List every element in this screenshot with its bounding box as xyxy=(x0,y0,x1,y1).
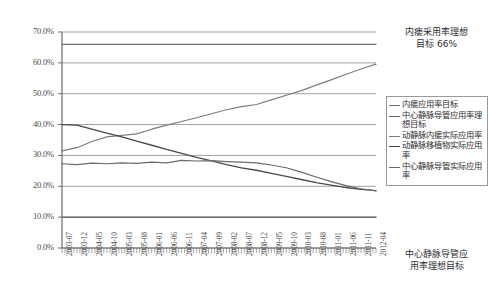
chart-legend: 内瘘应用率目标中心静脉导管应用率理想目标动静脉内瘘实际应用率动静脉移植物实际应用… xyxy=(386,96,488,186)
x-axis-label: 2003-07 xyxy=(65,232,74,256)
x-axis-label: 2009-05 xyxy=(275,232,284,256)
y-axis-label: 30.0% xyxy=(8,149,54,159)
x-axis-label: 2006-11 xyxy=(185,232,194,256)
plot-area: 70.0%60.0%50.0%40.0%30.0%20.0%10.0%0.0% … xyxy=(0,0,380,304)
legend-line-swatch-icon xyxy=(389,162,400,171)
target-note-top-line1: 内瘘采用率理想 xyxy=(385,26,488,38)
y-axis-label: 10.0% xyxy=(8,211,54,221)
x-axis-label: 2006-01 xyxy=(155,232,164,256)
x-axis-label: 2011-11 xyxy=(364,233,373,256)
x-axis-label: 2010-03 xyxy=(304,232,313,256)
target-note-bottom-line1: 中心静脉导管应 xyxy=(385,248,488,260)
legend-item-label: 中心静脉导管实际应用率 xyxy=(402,162,485,181)
x-axis-label: 2008-02 xyxy=(230,232,239,256)
legend-item[interactable]: 动静脉移植物实际应用率 xyxy=(389,141,485,160)
y-axis-label: 20.0% xyxy=(8,180,54,190)
legend-line-swatch-icon xyxy=(389,131,400,140)
x-axis-label: 2011-06 xyxy=(349,232,358,256)
y-axis-label: 50.0% xyxy=(8,88,54,98)
x-axis-label: 2009-10 xyxy=(290,232,299,256)
x-axis-label: 2008-12 xyxy=(260,232,269,256)
x-axis-label: 2005-03 xyxy=(125,232,134,256)
x-axis-label: 2008-07 xyxy=(245,232,254,256)
target-note-top: 内瘘采用率理想 目标 66% xyxy=(385,26,488,50)
x-axis-label: 2006-06 xyxy=(170,232,179,256)
legend-item[interactable]: 中心静脉导管实际应用率 xyxy=(389,162,485,181)
legend-line-swatch-icon xyxy=(389,141,400,150)
y-axis-label: 0.0% xyxy=(8,242,54,252)
legend-item[interactable]: 中心静脉导管应用率理想目标 xyxy=(389,111,485,130)
legend-item-label: 动静脉内瘘实际应用率 xyxy=(402,131,485,141)
x-axis-label: 2011-01 xyxy=(334,232,343,256)
target-note-bottom-line2: 用率理想目标 xyxy=(385,260,488,272)
legend-item-label: 内瘘应用率目标 xyxy=(402,100,485,110)
legend-line-swatch-icon xyxy=(389,111,400,120)
x-axis-label: 2003-12 xyxy=(80,232,89,256)
legend-item[interactable]: 内瘘应用率目标 xyxy=(389,100,485,110)
chart-container: 70.0%60.0%50.0%40.0%30.0%20.0%10.0%0.0% … xyxy=(0,0,490,304)
y-axis-label: 70.0% xyxy=(8,26,54,36)
legend-item-label: 动静脉移植物实际应用率 xyxy=(402,141,485,160)
legend-item[interactable]: 动静脉内瘘实际应用率 xyxy=(389,131,485,141)
x-axis-label: 2005-08 xyxy=(140,232,149,256)
x-axis-label: 2004-10 xyxy=(110,232,119,256)
target-note-top-line2: 目标 66% xyxy=(385,38,488,50)
legend-line-swatch-icon xyxy=(389,100,400,109)
y-axis-label: 60.0% xyxy=(8,57,54,67)
legend-item-label: 中心静脉导管应用率理想目标 xyxy=(402,111,485,130)
target-note-bottom: 中心静脉导管应 用率理想目标 xyxy=(385,248,488,272)
series-line-2 xyxy=(62,64,376,151)
x-axis-label: 2010-08 xyxy=(319,232,328,256)
x-axis-label: 2007-04 xyxy=(200,232,209,256)
line-chart-svg xyxy=(0,0,380,304)
x-axis-label: 2007-09 xyxy=(215,232,224,256)
y-axis-label: 40.0% xyxy=(8,119,54,129)
x-axis-label: 2004-05 xyxy=(95,232,104,256)
